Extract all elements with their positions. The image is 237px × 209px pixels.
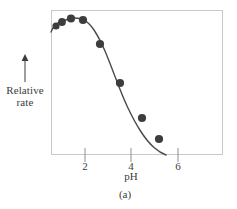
data-point (67, 14, 75, 22)
y-axis-label-line1: Relative (0, 84, 50, 96)
panel-caption: (a) (95, 188, 155, 200)
data-point (138, 114, 146, 122)
data-curve (51, 18, 166, 155)
data-point (155, 135, 163, 143)
x-tick-label-2: 2 (75, 161, 95, 172)
up-arrow-icon (22, 54, 29, 82)
data-point (79, 16, 87, 24)
data-point (58, 18, 66, 26)
data-points (52, 14, 163, 143)
x-axis-label: pH (101, 170, 161, 182)
y-axis-label-line2: rate (0, 96, 50, 108)
x-tick-label-6: 6 (168, 161, 188, 172)
data-point (96, 40, 104, 48)
figure-panel: Relative rate 2 4 6 pH (a) (0, 0, 237, 209)
y-axis-label: Relative rate (0, 84, 50, 108)
data-point (116, 79, 124, 87)
